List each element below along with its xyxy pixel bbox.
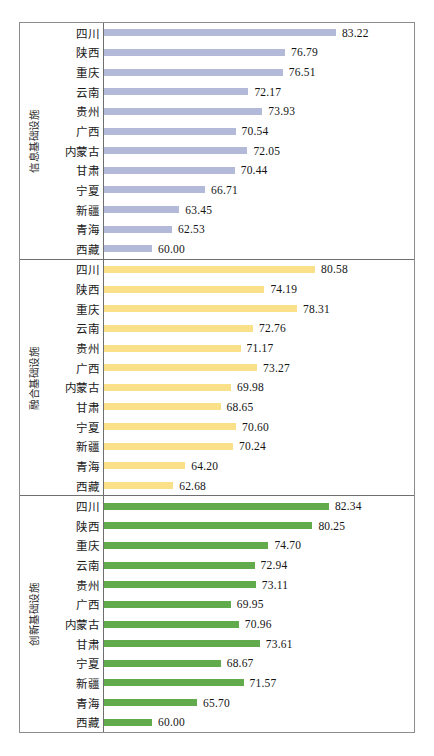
bar-row: 63.45	[104, 200, 414, 220]
bar	[104, 206, 179, 213]
bar-row: 72.05	[104, 141, 414, 161]
bars-area: 82.3480.2574.7072.9473.1169.9570.9673.61…	[104, 496, 414, 732]
bar-row: 76.51	[104, 62, 414, 82]
bar-value-label: 70.24	[239, 440, 266, 452]
bar-value-label: 76.51	[289, 66, 316, 78]
bar-value-label: 71.17	[247, 342, 274, 354]
bar-value-label: 63.45	[185, 204, 212, 216]
category-tick-label: 贵州	[46, 338, 103, 358]
bar-row: 73.11	[104, 575, 414, 595]
bar-value-label: 65.70	[203, 697, 230, 709]
panel-body: 四川陕西重庆云南贵州广西内蒙古甘肃宁夏新疆青海西藏80.5874.1978.31…	[46, 260, 414, 496]
bar-row: 71.17	[104, 338, 414, 358]
bar-value-label: 66.71	[211, 184, 238, 196]
panel-axis-title-label: 融合基础设施	[26, 346, 41, 409]
panel-axis-title: 创新基础设施	[20, 496, 46, 732]
bar	[104, 88, 248, 95]
bar	[104, 601, 231, 608]
panel-body: 四川陕西重庆云南贵州广西内蒙古甘肃宁夏新疆青海西藏83.2276.7976.51…	[46, 23, 414, 259]
bar-value-label: 60.00	[158, 716, 185, 728]
bar	[104, 403, 221, 410]
bar-row: 73.27	[104, 358, 414, 378]
bar-value-label: 73.27	[263, 362, 290, 374]
category-tick-label: 贵州	[46, 575, 103, 595]
bar	[104, 562, 255, 569]
bar-value-label: 76.79	[291, 46, 318, 58]
bars-area: 80.5874.1978.3172.7671.1773.2769.9868.65…	[104, 260, 414, 496]
bar	[104, 621, 239, 628]
bar-value-label: 64.20	[191, 460, 218, 472]
bar	[104, 423, 236, 430]
bar-value-label: 71.57	[250, 677, 277, 689]
category-tick-label: 四川	[46, 260, 103, 280]
bar-value-label: 70.96	[245, 618, 272, 630]
bar-row: 66.71	[104, 180, 414, 200]
bar-row: 60.00	[104, 712, 414, 732]
bar	[104, 364, 257, 371]
bar-value-label: 73.61	[266, 638, 293, 650]
bar-row: 62.53	[104, 219, 414, 239]
category-tick-label: 贵州	[46, 102, 103, 122]
bar-value-label: 70.60	[242, 421, 269, 433]
bars-area: 83.2276.7976.5172.1773.9370.5472.0570.44…	[104, 23, 414, 259]
bar-row: 74.70	[104, 536, 414, 556]
category-tick-label: 新疆	[46, 436, 103, 456]
bar-row: 65.70	[104, 693, 414, 713]
category-tick-label: 西藏	[46, 476, 103, 496]
category-tick-label: 青海	[46, 219, 103, 239]
category-tick-label: 重庆	[46, 299, 103, 319]
bar-value-label: 68.67	[227, 657, 254, 669]
bar	[104, 266, 315, 273]
chart-panel: 融合基础设施四川陕西重庆云南贵州广西内蒙古甘肃宁夏新疆青海西藏80.5874.1…	[20, 259, 414, 496]
bar-row: 64.20	[104, 456, 414, 476]
bar-row: 76.79	[104, 43, 414, 63]
bar-row: 72.76	[104, 319, 414, 339]
chart-panel: 创新基础设施四川陕西重庆云南贵州广西内蒙古甘肃宁夏新疆青海西藏82.3480.2…	[20, 495, 414, 732]
panel-axis-title-label: 创新基础设施	[26, 583, 41, 646]
bar-row: 68.67	[104, 653, 414, 673]
category-tick-label: 西藏	[46, 239, 103, 259]
panel-axis-title: 融合基础设施	[20, 260, 46, 496]
bar-row: 82.34	[104, 496, 414, 516]
bar-value-label: 80.58	[321, 263, 348, 275]
category-tick-label: 云南	[46, 319, 103, 339]
category-axis: 四川陕西重庆云南贵州广西内蒙古甘肃宁夏新疆青海西藏	[46, 496, 104, 732]
bar-row: 71.57	[104, 673, 414, 693]
bar-value-label: 69.98	[237, 381, 264, 393]
bar	[104, 660, 221, 667]
bar-value-label: 72.94	[261, 559, 288, 571]
category-tick-label: 四川	[46, 496, 103, 516]
bar	[104, 305, 297, 312]
category-tick-label: 宁夏	[46, 417, 103, 437]
category-tick-label: 甘肃	[46, 634, 103, 654]
bar	[104, 245, 152, 252]
category-tick-label: 陕西	[46, 516, 103, 536]
bar	[104, 503, 329, 510]
bar-value-label: 68.65	[227, 401, 254, 413]
category-tick-label: 内蒙古	[46, 141, 103, 161]
panel-axis-title: 信息基础设施	[20, 23, 46, 259]
bar-value-label: 83.22	[342, 27, 369, 39]
bar	[104, 443, 233, 450]
bar-row: 73.61	[104, 634, 414, 654]
bar-value-label: 72.76	[259, 322, 286, 334]
panel-axis-title-label: 信息基础设施	[26, 109, 41, 172]
category-tick-label: 新疆	[46, 200, 103, 220]
bar-value-label: 62.68	[179, 480, 206, 492]
category-tick-label: 云南	[46, 82, 103, 102]
category-tick-label: 广西	[46, 121, 103, 141]
bar	[104, 699, 197, 706]
bar-value-label: 69.95	[237, 598, 264, 610]
category-tick-label: 甘肃	[46, 397, 103, 417]
bar-row: 68.65	[104, 397, 414, 417]
bar-row: 60.00	[104, 239, 414, 259]
bar-row: 70.96	[104, 614, 414, 634]
category-tick-label: 广西	[46, 358, 103, 378]
bar-value-label: 62.53	[178, 223, 205, 235]
chart-panel: 信息基础设施四川陕西重庆云南贵州广西内蒙古甘肃宁夏新疆青海西藏83.2276.7…	[20, 23, 414, 259]
bar-row: 83.22	[104, 23, 414, 43]
bar-value-label: 72.05	[253, 145, 280, 157]
bar-row: 72.94	[104, 555, 414, 575]
bar-value-label: 82.34	[335, 500, 362, 512]
bar	[104, 542, 268, 549]
